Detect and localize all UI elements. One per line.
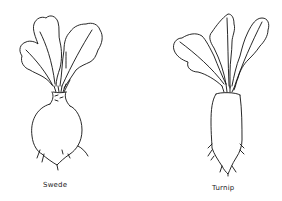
turnip-drawing	[173, 14, 268, 176]
swede-drawing	[20, 16, 102, 170]
turnip-label: Turnip	[212, 184, 234, 192]
illustration	[0, 0, 282, 201]
swede-label: Swede	[43, 181, 67, 189]
